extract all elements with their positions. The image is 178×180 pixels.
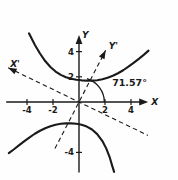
- x-prime-axis-label: X': [9, 59, 20, 69]
- hyperbola-lower-branch: [9, 123, 114, 172]
- x-tick-label: 2: [102, 105, 108, 115]
- hyperbola-upper-branch: [29, 33, 149, 80]
- plot-canvas: -4-22424-4 X Y X' Y' 71.57°: [0, 0, 178, 180]
- rotated-axes-group: [8, 50, 148, 148]
- y-prime-axis-label: Y': [109, 41, 118, 51]
- hyperbola-rotated-axes-figure: -4-22424-4 X Y X' Y' 71.57°: [0, 0, 178, 180]
- y-tick-label: 2: [68, 72, 74, 82]
- y-axis-label: Y: [82, 30, 90, 40]
- y-tick-label: 4: [68, 47, 74, 57]
- dashed-axis-arrowheads: [8, 50, 106, 74]
- primary-axes-group: [6, 35, 148, 173]
- rotation-angle-label: 71.57°: [112, 77, 147, 88]
- x-axis-label: X: [150, 97, 159, 107]
- y-tick-label: -4: [65, 147, 75, 157]
- dashed-axis-lines: [8, 50, 148, 148]
- x-tick-label: -2: [48, 105, 58, 115]
- y-prime-axis-arrowhead: [99, 50, 106, 59]
- x-tick-label: -4: [22, 105, 32, 115]
- x-tick-label: 4: [128, 105, 134, 115]
- x-axis-arrowhead: [139, 99, 148, 106]
- rotation-angle-arc: [87, 79, 104, 102]
